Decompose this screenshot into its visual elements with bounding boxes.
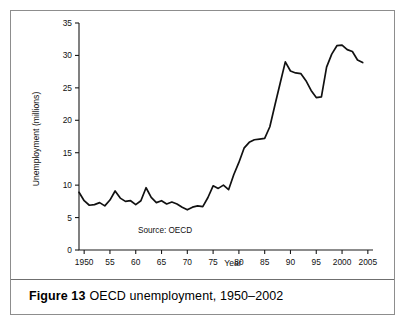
line-chart: 05101520253035 1950556065707580859095200… — [11, 11, 396, 273]
x-tick-label: 65 — [157, 257, 167, 267]
x-tick-label: 60 — [131, 257, 141, 267]
figure-caption: Figure 13OECD unemployment, 1950–2002 — [29, 289, 283, 303]
x-tick-label: 55 — [105, 257, 115, 267]
data-series-line — [79, 45, 363, 210]
data-series-group — [79, 45, 363, 210]
figure-caption-label: Figure 13 — [29, 289, 85, 303]
y-tick-label: 35 — [63, 18, 73, 28]
y-tick-label: 30 — [63, 50, 73, 60]
x-tick-label: 1950 — [75, 257, 94, 267]
x-tick-label: 75 — [208, 257, 218, 267]
y-tick-label: 0 — [67, 245, 72, 255]
x-tick-label: 2005 — [359, 257, 378, 267]
y-tick-label: 25 — [63, 83, 73, 93]
x-axis-title: Year — [224, 258, 242, 268]
x-tick-label: 90 — [286, 257, 296, 267]
x-tick-label: 70 — [183, 257, 193, 267]
y-tick-label: 5 — [67, 213, 72, 223]
x-tick-label: 95 — [312, 257, 322, 267]
y-axis-ticks: 05101520253035 — [63, 18, 79, 255]
x-tick-label: 2000 — [333, 257, 352, 267]
figure-frame: 05101520253035 1950556065707580859095200… — [10, 10, 395, 315]
y-tick-label: 10 — [63, 180, 73, 190]
x-tick-label: 85 — [260, 257, 270, 267]
y-tick-label: 15 — [63, 148, 73, 158]
caption-divider — [11, 279, 394, 280]
figure-caption-text: OECD unemployment, 1950–2002 — [89, 289, 283, 303]
chart-plot-area: 05101520253035 1950556065707580859095200… — [11, 11, 396, 273]
y-tick-label: 20 — [63, 115, 73, 125]
chart-axes — [79, 23, 373, 250]
source-annotation: Source: OECD — [138, 226, 192, 235]
y-axis-title: Unemployment (millions) — [31, 92, 41, 187]
axis-lines — [79, 23, 373, 250]
